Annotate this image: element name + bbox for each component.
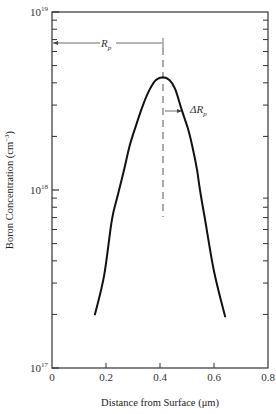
x-axis-title: Distance from Surface (μm)	[101, 397, 219, 409]
x-tick-label: 0.6	[207, 371, 221, 383]
chart: Rp ΔRp 101710181019 00.20.40.60.8 Distan…	[0, 0, 276, 414]
x-axis-tick-labels: 00.20.40.60.8	[49, 371, 275, 383]
x-axis-ticks	[106, 363, 214, 368]
minor-tick-marks	[52, 20, 268, 314]
y-tick-label: 1019	[30, 5, 49, 18]
x-tick-label: 0	[49, 371, 55, 383]
y-tick-label: 1017	[30, 361, 49, 374]
x-tick-label: 0.4	[153, 371, 167, 383]
svg-text:Rp: Rp	[100, 37, 112, 52]
y-axis-title-text: Boron Concentration (cm	[4, 142, 16, 249]
x-tick-label: 0.8	[261, 371, 275, 383]
delta-rp-label-subscript: p	[202, 110, 207, 118]
delta-rp-annotation: ΔRp	[165, 103, 207, 118]
delta-rp-label: ΔR	[189, 103, 203, 115]
rp-arrowhead-left-icon	[53, 41, 58, 45]
x-tick-label: 0.2	[99, 371, 113, 383]
svg-text:ΔRp: ΔRp	[189, 103, 207, 118]
rp-label-subscript: p	[107, 44, 112, 52]
y-axis-tick-labels: 101710181019	[30, 5, 49, 374]
y-axis-title: Boron Concentration (cm−3)	[3, 130, 16, 249]
y-axis-title-close: )	[4, 130, 16, 134]
rp-annotation: Rp	[53, 37, 163, 52]
y-tick-label: 1018	[30, 183, 49, 196]
plot-frame	[52, 12, 268, 368]
